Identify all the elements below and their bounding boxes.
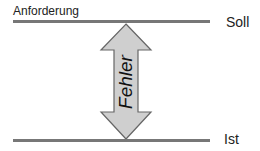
actual-line <box>13 139 210 142</box>
actual-label: Ist <box>224 131 239 147</box>
error-label: Fehler <box>115 55 137 109</box>
